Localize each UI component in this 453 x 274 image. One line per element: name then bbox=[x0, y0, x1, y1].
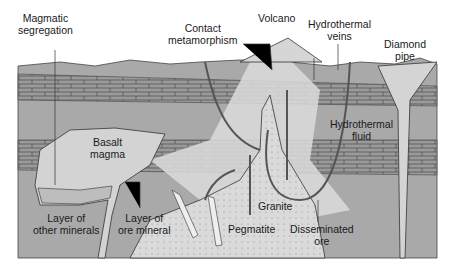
label-hydrothermal-fluid: Hydrothermal fluid bbox=[330, 118, 393, 142]
label-line: magma bbox=[90, 148, 125, 160]
label-hydrothermal-veins: Hydrothermal veins bbox=[308, 18, 371, 42]
label-magmatic-segregation: Magmatic segregation bbox=[18, 12, 73, 36]
label-line: veins bbox=[308, 30, 371, 42]
label-line: Layer of bbox=[118, 212, 171, 224]
label-line: Hydrothermal bbox=[330, 118, 393, 130]
label-line: ore bbox=[290, 235, 354, 247]
label-basalt-magma: Basalt magma bbox=[90, 136, 125, 160]
label-line: metamorphism bbox=[168, 34, 237, 46]
label-contact-metamorphism: Contact metamorphism bbox=[168, 22, 237, 46]
label-line: Layer of bbox=[33, 212, 100, 224]
label-line: fluid bbox=[330, 130, 393, 142]
label-line: Magmatic bbox=[18, 12, 73, 24]
label-line: Contact bbox=[168, 22, 237, 34]
label-pegmatite: Pegmatite bbox=[228, 223, 275, 235]
label-granite: Granite bbox=[258, 200, 292, 212]
label-line: Diamond bbox=[384, 38, 426, 50]
label-line: Basalt bbox=[90, 136, 125, 148]
label-line: other minerals bbox=[33, 224, 100, 236]
label-layer-ore-mineral: Layer of ore mineral bbox=[118, 212, 171, 236]
label-layer-other-minerals: Layer of other minerals bbox=[33, 212, 100, 236]
label-line: ore mineral bbox=[118, 224, 171, 236]
label-line: pipe bbox=[384, 50, 426, 62]
label-line: Disseminated bbox=[290, 223, 354, 235]
label-disseminated-ore: Disseminated ore bbox=[290, 223, 354, 247]
label-line: Hydrothermal bbox=[308, 18, 371, 30]
label-line: segregation bbox=[18, 24, 73, 36]
label-diamond-pipe: Diamond pipe bbox=[384, 38, 426, 62]
label-volcano: Volcano bbox=[258, 12, 295, 24]
